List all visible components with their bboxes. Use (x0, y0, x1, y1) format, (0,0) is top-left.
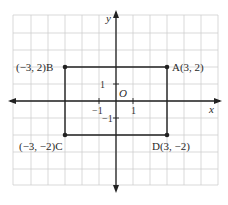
point-a (165, 65, 170, 70)
point-b (63, 65, 68, 70)
label-point-b: (−3, 2)B (16, 61, 53, 74)
y-axis-label: y (105, 12, 111, 24)
y-axis-up-arrow-icon (113, 10, 119, 18)
coordinate-plane: y x O 1 −1 −1 1 A(3, 2) (−3, 2)B (−3, −2… (0, 0, 228, 205)
tick-x-pos: 1 (131, 105, 136, 116)
point-d (165, 133, 170, 138)
tick-x-neg: −1 (92, 105, 103, 116)
tick-y-neg: −1 (102, 113, 113, 124)
label-point-d: D(3, −2) (152, 140, 190, 153)
x-axis-label: x (208, 103, 214, 115)
tick-y-pos: 1 (100, 79, 105, 90)
label-point-c: (−3, −2)C (19, 140, 63, 153)
x-axis-left-arrow-icon (8, 98, 16, 104)
origin-label: O (119, 87, 127, 99)
point-c (63, 133, 68, 138)
label-point-a: A(3, 2) (172, 61, 204, 74)
y-axis-down-arrow-icon (113, 185, 119, 193)
axes (8, 10, 222, 193)
